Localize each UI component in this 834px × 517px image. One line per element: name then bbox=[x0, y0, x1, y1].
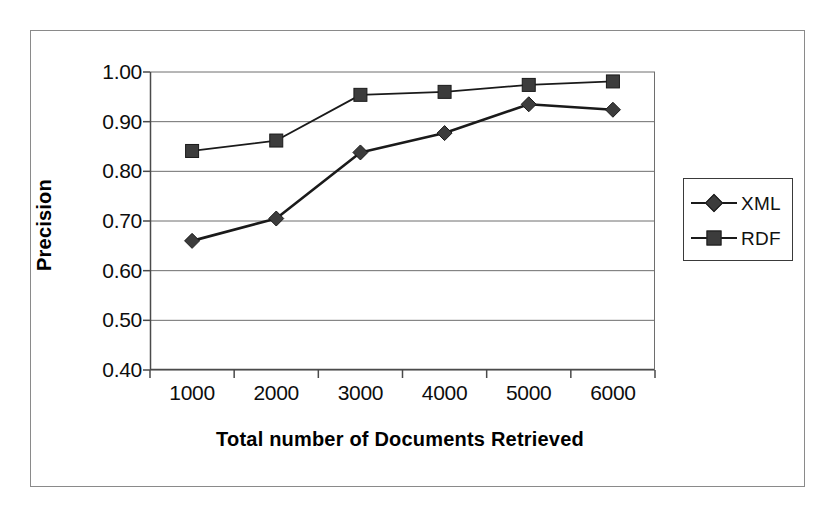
y-axis-tick-labels: 0.400.500.600.700.800.901.00 bbox=[70, 72, 142, 370]
y-tick-label: 0.80 bbox=[76, 160, 142, 181]
x-tick-label: 3000 bbox=[318, 382, 402, 404]
x-tick-label: 5000 bbox=[487, 382, 571, 404]
data-point-xml-5000 bbox=[521, 97, 536, 112]
chart-figure: 0.400.500.600.700.800.901.00 Precision 1… bbox=[0, 0, 834, 517]
legend-sample-diamond-icon bbox=[689, 190, 739, 216]
y-axis-title: Precision bbox=[33, 179, 56, 271]
y-tick-label: 0.90 bbox=[76, 111, 142, 132]
plot-svg bbox=[150, 72, 655, 370]
x-tick-label: 4000 bbox=[403, 382, 487, 404]
data-point-rdf-2000 bbox=[270, 134, 283, 147]
gridlines bbox=[150, 72, 655, 370]
series-line-rdf bbox=[192, 81, 613, 151]
x-tick-label: 1000 bbox=[150, 382, 234, 404]
y-tick-label: 0.40 bbox=[76, 359, 142, 380]
y-tick-label: 0.70 bbox=[76, 210, 142, 231]
legend-item-rdf: RDF bbox=[684, 221, 792, 255]
data-point-xml-6000 bbox=[605, 102, 620, 117]
data-point-rdf-3000 bbox=[354, 88, 367, 101]
x-axis-tick-labels: 100020003000400050006000 bbox=[150, 382, 655, 410]
x-tick-label: 2000 bbox=[234, 382, 318, 404]
y-tick-label: 1.00 bbox=[76, 61, 142, 82]
data-point-xml-1000 bbox=[185, 233, 200, 248]
data-point-rdf-1000 bbox=[186, 144, 199, 157]
data-series-layer bbox=[185, 75, 621, 248]
y-axis-title-container: Precision bbox=[24, 120, 64, 330]
data-point-rdf-6000 bbox=[606, 75, 619, 88]
legend-label-xml: XML bbox=[741, 194, 781, 213]
data-point-rdf-4000 bbox=[438, 85, 451, 98]
x-axis-title: Total number of Documents Retrieved bbox=[120, 428, 680, 451]
data-point-rdf-5000 bbox=[522, 78, 535, 91]
legend-sample-square-icon bbox=[689, 225, 739, 251]
x-tick-label: 6000 bbox=[571, 382, 655, 404]
legend-label-rdf: RDF bbox=[741, 229, 781, 248]
legend-item-xml: XML bbox=[684, 186, 792, 220]
plot-area bbox=[150, 72, 655, 370]
chart-legend: XML RDF bbox=[683, 178, 793, 261]
series-line-xml bbox=[192, 104, 613, 241]
data-point-xml-4000 bbox=[437, 126, 452, 141]
y-tick-label: 0.60 bbox=[76, 260, 142, 281]
y-tick-label: 0.50 bbox=[76, 309, 142, 330]
